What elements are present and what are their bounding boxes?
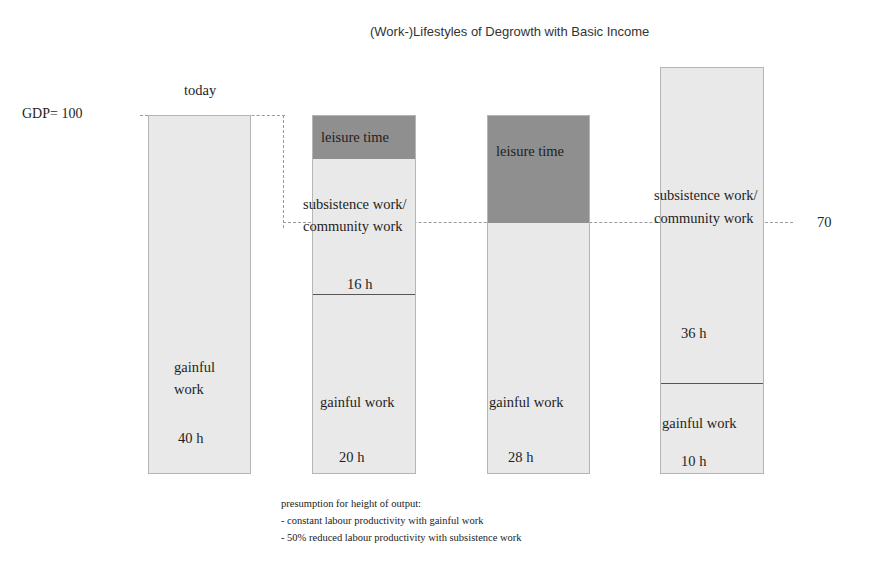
leisure-segment: leisure time	[313, 116, 415, 159]
community-label: community work	[654, 210, 753, 227]
subsistence-label: subsistence work/	[303, 196, 407, 213]
subsistence-hours: 16 h	[347, 276, 372, 293]
community-label: community work	[303, 218, 402, 235]
bar-today: gainful work 40 h	[148, 115, 251, 474]
bar-scenario-3: subsistence work/ community work 36 h ga…	[660, 67, 764, 474]
gainful-hours: 40 h	[178, 430, 203, 447]
note-item: - constant labour productivity with gain…	[281, 514, 483, 527]
gainful-work-label: gainful work	[320, 394, 395, 411]
gainful-work-label-2: work	[174, 381, 204, 398]
bar-scenario-2: leisure time gainful work 28 h	[487, 115, 590, 474]
subsistence-label: subsistence work/	[654, 187, 758, 204]
notes-heading: presumption for height of output:	[281, 497, 421, 510]
level-70-label: 70	[817, 214, 832, 231]
gainful-hours: 20 h	[339, 449, 364, 466]
note-item: - 50% reduced labour productivity with s…	[281, 531, 522, 544]
gainful-hours: 28 h	[508, 449, 533, 466]
bar-scenario-1: leisure time subsistence work/ community…	[312, 115, 416, 474]
gainful-hours: 10 h	[681, 453, 706, 470]
bar-today-header: today	[184, 82, 216, 99]
diagram-title: (Work-)Lifestyles of Degrowth with Basic…	[370, 24, 649, 39]
gdp-100-label: GDP= 100	[22, 105, 82, 122]
gainful-work-label: gainful work	[662, 415, 737, 432]
drop-dashed-line	[283, 115, 284, 228]
leisure-label: leisure time	[496, 143, 564, 160]
leisure-segment: leisure time	[488, 116, 589, 223]
gainful-work-label: gainful	[174, 359, 215, 376]
segment-divider	[661, 383, 763, 384]
subsistence-hours: 36 h	[681, 325, 706, 342]
gainful-work-label: gainful work	[489, 394, 564, 411]
segment-divider	[313, 294, 415, 295]
leisure-label: leisure time	[321, 129, 389, 146]
